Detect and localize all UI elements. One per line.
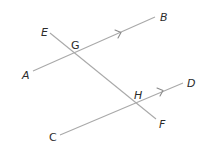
label-d: D [187,77,195,90]
label-c: C [49,131,57,144]
parallel-arrow-cd-icon [157,88,163,96]
label-h: H [134,89,142,102]
label-b: B [160,11,168,24]
geometry-diagram: A B C D E F G H [0,0,203,153]
label-a: A [21,69,30,82]
label-f: F [159,118,166,131]
diagram-svg: A B C D E F G H [0,0,203,153]
label-g: G [71,39,80,52]
transversal-ef [50,33,156,119]
line-ab [33,17,155,71]
label-e: E [41,26,48,39]
